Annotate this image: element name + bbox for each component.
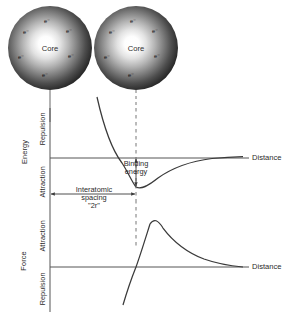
binding-energy-annotation: Binding energy xyxy=(110,160,162,176)
binding-energy-line2: energy xyxy=(110,168,162,176)
electron-icon: e⁻ xyxy=(44,18,50,24)
electron-icon: e⁻ xyxy=(109,29,115,35)
electron-icon: e⁻ xyxy=(42,72,48,78)
force-attraction-label: Attraction xyxy=(39,208,47,264)
electron-icon: e⁻ xyxy=(66,28,72,34)
electron-icon: e⁻ xyxy=(23,29,29,35)
interatomic-spacing-line3: "2r" xyxy=(56,202,132,210)
electron-icon: e⁻ xyxy=(128,72,134,78)
energy-attraction-label: Attraction xyxy=(39,154,47,210)
electron-icon: e⁻ xyxy=(154,53,160,59)
electron-icon: e⁻ xyxy=(104,54,110,60)
atom-left-core-label: Core xyxy=(32,44,68,53)
electron-icon: e⁻ xyxy=(130,18,136,24)
interatomic-force-energy-figure: Core Core e⁻ e⁻ e⁻ e⁻ e⁻ e⁻ e⁻ e⁻ e⁻ e⁻ … xyxy=(0,0,283,331)
electron-icon: e⁻ xyxy=(68,53,74,59)
atom-right-core-label: Core xyxy=(118,44,154,53)
force-repulsion-label: Repulsion xyxy=(39,261,47,317)
energy-repulsion-label: Repulsion xyxy=(39,101,47,157)
force-axis-label: Force xyxy=(20,233,28,289)
energy-distance-label: Distance xyxy=(252,154,282,162)
energy-axis-label: Energy xyxy=(21,124,29,180)
interatomic-spacing-annotation: Interatomic spacing "2r" xyxy=(56,186,132,210)
electron-icon: e⁻ xyxy=(152,28,158,34)
force-curve xyxy=(123,221,243,305)
force-distance-label: Distance xyxy=(252,263,282,271)
electron-icon: e⁻ xyxy=(18,54,24,60)
